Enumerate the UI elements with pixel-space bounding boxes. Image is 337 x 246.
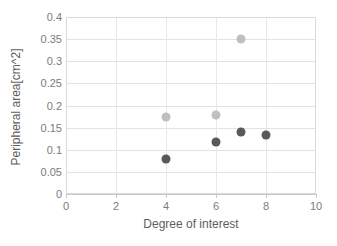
x-axis-tick-label: 10 (296, 200, 336, 212)
x-axis-tick (216, 194, 217, 198)
x-axis-tick (166, 194, 167, 198)
x-axis-tick-label: 2 (96, 200, 136, 212)
data-point (162, 113, 171, 122)
y-axis-title: Peripheral area[cm^2] (9, 17, 23, 197)
gridline-horizontal (66, 150, 316, 151)
gridline-horizontal (66, 128, 316, 129)
plot-area (66, 17, 316, 194)
x-axis-tick-label: 4 (146, 200, 186, 212)
data-point (212, 138, 221, 147)
gridline-horizontal (66, 61, 316, 62)
x-axis-tick (66, 194, 67, 198)
gridline-horizontal (66, 83, 316, 84)
gridline-vertical (166, 17, 167, 194)
x-axis-title: Degree of interest (66, 217, 316, 231)
x-axis-tick (116, 194, 117, 198)
data-point (162, 154, 171, 163)
gridline-horizontal (66, 39, 316, 40)
scatter-chart: 00.050.10.150.20.250.30.350.4 0246810 De… (0, 0, 337, 246)
data-point (237, 127, 246, 136)
x-axis-tick-label: 0 (46, 200, 86, 212)
gridline-vertical (266, 17, 267, 194)
data-point (262, 130, 271, 139)
data-point (237, 35, 246, 44)
gridline-horizontal (66, 172, 316, 173)
x-axis-line (66, 194, 316, 195)
x-axis-tick-label: 8 (246, 200, 286, 212)
x-axis-tick (266, 194, 267, 198)
data-point (212, 111, 221, 120)
gridline-horizontal (66, 106, 316, 107)
x-axis-tick (316, 194, 317, 198)
gridline-vertical (116, 17, 117, 194)
gridline-horizontal (66, 17, 316, 18)
x-axis-tick-label: 6 (196, 200, 236, 212)
gridline-vertical (216, 17, 217, 194)
